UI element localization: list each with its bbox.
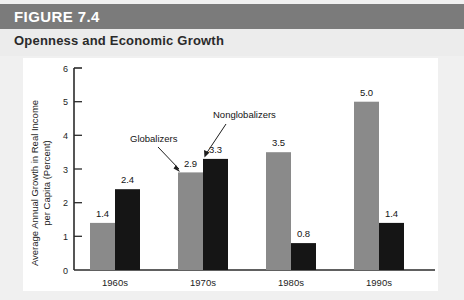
bar-globalizers-1980s xyxy=(266,152,291,270)
annotation-label-nonglobalizers: Nonglobalizers xyxy=(213,109,276,120)
chart-plot-panel: Average Annual Growth in Real Income per… xyxy=(23,58,438,291)
bar-value-nonglobalizers-1970s: 3.3 xyxy=(209,144,222,155)
bar-value-globalizers-1980s: 3.5 xyxy=(272,137,285,148)
figure-title: Openness and Economic Growth xyxy=(14,33,224,48)
x-tick-label-1990s: 1990s xyxy=(366,277,392,288)
bar-value-nonglobalizers-1990s: 1.4 xyxy=(385,208,398,219)
bar-value-nonglobalizers-1980s: 0.8 xyxy=(297,228,310,239)
x-tick-label-1970s: 1970s xyxy=(190,277,216,288)
y-tick-label-0: 0 xyxy=(63,266,68,276)
y-tick-label-1: 1 xyxy=(63,232,68,242)
figure-container: FIGURE 7.4 Openness and Economic Growth … xyxy=(0,0,464,300)
bar-nonglobalizers-1970s xyxy=(203,159,228,270)
bar-value-globalizers-1970s: 2.9 xyxy=(184,158,197,169)
bar-globalizers-1990s xyxy=(354,102,379,270)
x-tick-label-1960s: 1960s xyxy=(102,277,128,288)
bar-nonglobalizers-1990s xyxy=(379,223,404,270)
y-tick-label-4: 4 xyxy=(63,131,68,141)
figure-number-label: FIGURE 7.4 xyxy=(14,8,100,25)
bar-nonglobalizers-1960s xyxy=(115,189,140,270)
y-tick-label-5: 5 xyxy=(63,97,68,107)
y-axis-label-line1: Average Annual Growth in Real Income xyxy=(29,100,40,266)
y-tick-label-2: 2 xyxy=(63,198,68,208)
bar-chart: Average Annual Growth in Real Income per… xyxy=(23,58,438,291)
bar-globalizers-1970s xyxy=(178,172,203,270)
bar-nonglobalizers-1980s xyxy=(291,243,316,270)
annotation-label-globalizers: Globalizers xyxy=(130,133,178,144)
bar-globalizers-1960s xyxy=(90,223,115,270)
bar-value-globalizers-1990s: 5.0 xyxy=(360,87,373,98)
y-tick-label-3: 3 xyxy=(63,165,68,175)
bar-value-globalizers-1960s: 1.4 xyxy=(96,208,109,219)
y-axis-label-line2: per Capita (Percent) xyxy=(41,140,52,226)
y-tick-label-6: 6 xyxy=(63,64,68,74)
x-tick-label-1980s: 1980s xyxy=(278,277,304,288)
bar-value-nonglobalizers-1960s: 2.4 xyxy=(121,174,134,185)
